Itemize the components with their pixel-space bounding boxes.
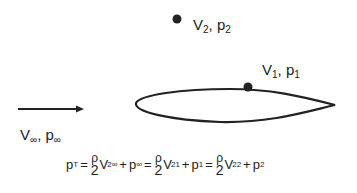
point2-label: V2, p2	[193, 16, 231, 35]
airfoil-outline	[136, 89, 335, 122]
arrow-head-icon	[76, 106, 84, 113]
point1-label: V1, p1	[262, 61, 300, 80]
freestream-label: V∞, p∞	[20, 126, 61, 145]
bernoulli-equation: pT = ρ2 V2∞ + p∞ = ρ2 V21 + p1 = ρ2 V22 …	[66, 152, 264, 176]
point1-dot	[244, 83, 253, 92]
point2-dot	[173, 15, 182, 24]
